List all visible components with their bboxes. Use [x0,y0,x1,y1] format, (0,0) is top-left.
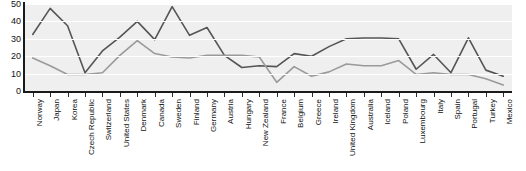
x-tick [346,93,347,97]
x-tick [486,93,487,97]
y-tick-label: 40 [1,17,21,26]
x-category-label: Denmark [140,99,148,131]
gridline [24,74,512,75]
y-tick-label: 0 [1,87,21,96]
x-tick [155,93,156,97]
x-category-label: Norway [36,99,44,126]
x-tick [329,93,330,97]
x-tick [224,93,225,97]
x-category-label: Italy [437,99,445,114]
x-category-label: Korea [71,99,79,120]
x-category-label: Spain [454,99,462,119]
y-axis-line [23,2,25,92]
x-tick [434,93,435,97]
y-tick-label: 30 [1,35,21,44]
y-tick-label: 50 [1,0,21,9]
x-tick [503,93,504,97]
x-tick [451,93,452,97]
x-tick [137,93,138,97]
y-tick-label: 20 [1,52,21,61]
x-category-label: Finland [193,99,201,125]
x-tick [102,93,103,97]
x-category-label: Poland [402,99,410,124]
x-tick [399,93,400,97]
x-tick [312,93,313,97]
x-tick [381,93,382,97]
x-category-label: Portugal [471,99,479,129]
x-category-label: Austria [227,99,235,124]
series-lines [24,4,512,91]
y-axis-tick-labels: 01020304050 [0,0,21,95]
x-category-label: Germany [210,99,218,132]
x-tick [364,93,365,97]
y-tick-label: 10 [1,70,21,79]
x-tick [294,93,295,97]
gridline [24,56,512,57]
x-category-label: Mexico [506,99,514,124]
x-tick [207,93,208,97]
x-category-label: Switzerland [105,99,113,140]
x-tick [68,93,69,97]
gridline [24,39,512,40]
x-category-label: Belgium [297,99,305,128]
x-tick [468,93,469,97]
x-category-label: Greece [315,99,323,125]
series-line-series-light [33,41,504,85]
x-category-label: Czech Republic [88,99,96,155]
x-tick [277,93,278,97]
x-category-label: Iceland [384,99,392,125]
x-category-label: Sweden [175,99,183,128]
x-tick [33,93,34,97]
x-category-label: New Zealand [262,99,270,146]
x-category-label: United Kingdom [349,99,357,156]
x-tick [259,93,260,97]
x-category-label: Hungary [245,99,253,129]
x-category-label: Turkey [489,99,497,123]
x-category-label: Australia [367,99,375,130]
x-category-label: France [280,99,288,124]
x-tick [242,93,243,97]
x-tick [172,93,173,97]
gridline [24,4,512,5]
x-category-label: Japan [53,99,61,121]
plot-area [24,4,512,91]
x-category-label: Canada [158,99,166,127]
x-tick [416,93,417,97]
x-category-label: Ireland [332,99,340,123]
series-line-series-dark [33,7,504,77]
gridline [24,21,512,22]
x-axis-line [23,91,512,93]
x-tick [85,93,86,97]
x-tick [190,93,191,97]
x-category-label: United States [123,99,131,147]
x-tick [120,93,121,97]
x-tick [50,93,51,97]
line-chart: 01020304050 NorwayJapanKoreaCzech Republ… [0,0,526,171]
x-category-label: Luxembourg [419,99,427,143]
